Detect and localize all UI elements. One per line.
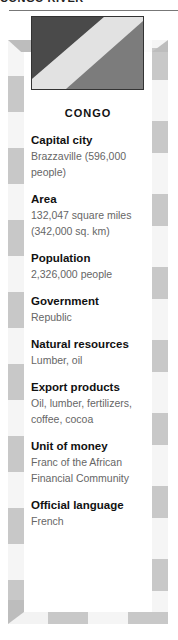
fact-government: Government Republic xyxy=(31,294,151,325)
fact-value: Franc of the African Financial Community xyxy=(31,454,151,486)
fact-value: Oil, lumber, fertilizers, coffee, cocoa xyxy=(31,395,151,427)
frame-left-border xyxy=(8,40,24,624)
page-header-text: CONGO RIVER xyxy=(0,0,178,6)
fact-unit-of-money: Unit of money Franc of the African Finan… xyxy=(31,439,151,486)
fact-label: Official language xyxy=(31,498,151,513)
fact-label: Population xyxy=(31,251,151,266)
fact-label: Unit of money xyxy=(31,439,151,454)
fact-label: Area xyxy=(31,192,151,207)
fact-value: Republic xyxy=(31,309,151,325)
fact-value: Lumber, oil xyxy=(31,352,151,368)
fact-label: Capital city xyxy=(31,133,151,148)
flag-icon xyxy=(32,17,143,89)
frame-bottom-border xyxy=(8,612,168,624)
fact-label: Government xyxy=(31,294,151,309)
fact-area: Area 132,047 square miles (342,000 sq. k… xyxy=(31,192,151,239)
fact-value: French xyxy=(31,513,151,529)
fact-official-language: Official language French xyxy=(31,498,151,529)
frame-right-border xyxy=(152,40,168,624)
fact-population: Population 2,326,000 people xyxy=(31,251,151,282)
country-title: CONGO xyxy=(24,107,152,119)
fact-value: 2,326,000 people xyxy=(31,266,151,282)
fact-capital-city: Capital city Brazzaville (596,000 people… xyxy=(31,133,151,180)
fact-natural-resources: Natural resources Lumber, oil xyxy=(31,337,151,368)
fact-label: Export products xyxy=(31,380,151,395)
fact-export-products: Export products Oil, lumber, fertilizers… xyxy=(31,380,151,427)
header-rule xyxy=(9,10,178,11)
fact-label: Natural resources xyxy=(31,337,151,352)
fact-value: 132,047 square miles (342,000 sq. km) xyxy=(31,207,151,239)
fact-value: Brazzaville (596,000 people) xyxy=(31,148,151,180)
fact-list: Capital city Brazzaville (596,000 people… xyxy=(31,133,151,541)
congo-flag xyxy=(31,16,144,90)
